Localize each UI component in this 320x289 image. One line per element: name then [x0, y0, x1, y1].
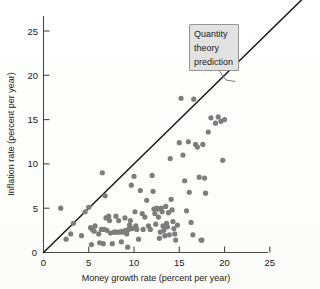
data-point — [71, 221, 76, 226]
data-point — [165, 224, 170, 229]
data-point — [131, 174, 136, 179]
data-point — [199, 237, 204, 242]
data-point — [182, 178, 187, 183]
data-point — [79, 233, 84, 238]
data-point — [220, 158, 225, 163]
data-point — [89, 242, 94, 247]
data-point — [169, 197, 174, 202]
data-point — [150, 173, 155, 178]
data-point — [106, 214, 111, 219]
data-point — [157, 236, 162, 241]
data-point — [113, 214, 118, 219]
y-tick-label-0: 0 — [32, 247, 37, 258]
data-point — [101, 241, 106, 246]
data-point — [184, 208, 189, 213]
data-point — [195, 144, 200, 149]
data-point — [213, 121, 218, 126]
data-point — [216, 114, 221, 119]
x-tick-label-5: 5 — [86, 257, 91, 268]
data-point — [169, 207, 174, 212]
data-point — [124, 231, 129, 236]
data-point — [153, 222, 158, 227]
data-point — [172, 231, 177, 236]
data-point — [163, 204, 168, 209]
data-point — [208, 115, 213, 120]
quantity-theory-prediction-line — [44, 0, 303, 252]
data-point — [125, 245, 130, 250]
data-point — [186, 139, 191, 144]
data-point — [187, 190, 192, 195]
data-points-group — [58, 96, 227, 250]
data-point — [86, 205, 91, 210]
callout-line-3: prediction — [194, 57, 233, 67]
data-point — [190, 232, 195, 237]
data-point — [173, 237, 178, 242]
data-point — [191, 97, 196, 102]
x-tick-label-10: 10 — [129, 257, 140, 268]
x-tick-label-0: 0 — [41, 257, 46, 268]
x-axis-title: Money growth rate (percent per year) — [82, 273, 231, 283]
data-point — [128, 218, 133, 223]
data-point — [92, 223, 97, 228]
data-point — [110, 241, 115, 246]
data-point — [167, 232, 172, 237]
data-point — [197, 175, 202, 180]
data-point — [134, 227, 139, 232]
data-point — [159, 209, 164, 214]
y-tick-label-10: 10 — [27, 158, 38, 169]
data-point — [200, 142, 205, 147]
data-point — [170, 219, 175, 224]
data-point — [122, 215, 127, 220]
data-point — [188, 220, 193, 225]
x-tick-label-20: 20 — [219, 257, 230, 268]
callout-line-2: theory — [194, 43, 220, 53]
y-tick-label-25: 25 — [27, 26, 38, 37]
y-tick-label-20: 20 — [27, 70, 38, 81]
data-point — [178, 96, 183, 101]
data-point — [138, 188, 143, 193]
data-point — [132, 209, 137, 214]
data-point — [116, 218, 121, 223]
data-point — [206, 129, 211, 134]
data-point — [180, 152, 185, 157]
data-point — [150, 189, 155, 194]
data-point — [119, 239, 124, 244]
quantity-theory-callout: Quantity theory prediction — [190, 25, 239, 71]
data-point — [58, 206, 63, 211]
y-tick-label-15: 15 — [27, 114, 38, 125]
data-point — [144, 198, 149, 203]
data-point — [83, 209, 88, 214]
figure-scatter-money-growth-vs-inflation: 0510152025 0510152025 Quantity theory pr… — [0, 0, 320, 289]
y-axis-title: Inflation rate (percent per year) — [6, 72, 16, 196]
x-axis-ticks: 0510152025 — [41, 247, 275, 269]
data-point — [202, 175, 207, 180]
data-point — [162, 233, 167, 238]
data-point — [148, 227, 153, 232]
data-point — [102, 193, 107, 198]
data-point — [96, 231, 101, 236]
data-point — [175, 222, 180, 227]
callout-line-1: Quantity — [194, 29, 228, 39]
data-point — [107, 218, 112, 223]
y-tick-label-5: 5 — [33, 203, 38, 214]
data-point — [140, 227, 145, 232]
data-point — [100, 170, 105, 175]
data-point — [177, 140, 182, 145]
data-point — [64, 237, 69, 242]
data-point — [142, 214, 147, 219]
y-axis-ticks: 0510152025 — [27, 26, 49, 259]
scatter-plot-canvas: 0510152025 0510152025 Quantity theory pr… — [0, 0, 320, 289]
data-point — [136, 237, 141, 242]
data-point — [168, 156, 173, 161]
data-point — [222, 117, 227, 122]
x-tick-label-25: 25 — [265, 257, 276, 268]
data-point — [129, 183, 134, 188]
data-point — [92, 229, 97, 234]
data-point — [68, 231, 73, 236]
x-tick-label-15: 15 — [174, 257, 185, 268]
data-point — [156, 214, 161, 219]
data-point — [203, 191, 208, 196]
